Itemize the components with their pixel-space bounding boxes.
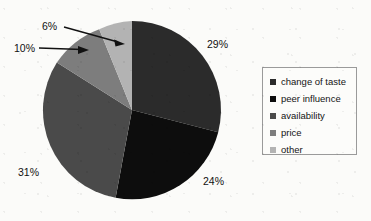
label-price: 10% — [14, 42, 35, 54]
legend-swatch-change-of-taste — [270, 79, 276, 85]
pie-chart-figure: 29% 24% 31% 10% 6% change of taste peer … — [0, 0, 371, 221]
legend-swatch-availability — [270, 113, 276, 119]
label-availability: 31% — [18, 166, 39, 178]
legend-item-price[interactable]: price — [270, 125, 356, 141]
legend-label-peer-influence: peer influence — [281, 94, 341, 104]
legend-item-availability[interactable]: availability — [270, 108, 356, 124]
label-other: 6% — [42, 20, 57, 32]
label-peer-influence: 24% — [203, 175, 224, 187]
legend-swatch-peer-influence — [270, 96, 276, 102]
legend-label-change-of-taste: change of taste — [281, 77, 346, 87]
legend-item-peer-influence[interactable]: peer influence — [270, 91, 356, 107]
legend-item-other[interactable]: other — [270, 142, 356, 158]
legend-label-other: other — [281, 145, 303, 155]
chart-legend: change of taste peer influence availabil… — [262, 67, 357, 155]
legend-swatch-other — [270, 147, 276, 153]
legend-label-price: price — [281, 128, 302, 138]
legend-swatch-price — [270, 130, 276, 136]
legend-item-change-of-taste[interactable]: change of taste — [270, 74, 356, 90]
legend-label-availability: availability — [281, 111, 325, 121]
label-change-of-taste: 29% — [207, 38, 228, 50]
